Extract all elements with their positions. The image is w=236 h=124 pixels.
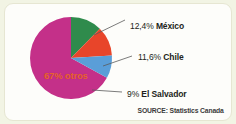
leader-line-el-salvador — [92, 90, 122, 92]
leader-line-mexico — [94, 20, 125, 35]
pie-label-mexico-value: 12,4% — [130, 21, 154, 31]
pie-chart-graphic — [5, 4, 232, 121]
pie-label-el-salvador-value: 9% — [127, 89, 139, 99]
pie-label-mexico: 12,4% México — [130, 22, 184, 31]
pie-label-chile-name: Chile — [163, 52, 183, 62]
chart-figure: 12,4% México 11,6% Chile 9% El Salvador … — [0, 0, 236, 124]
pie-label-otros: 67% otros — [44, 70, 88, 81]
pie-label-mexico-name: México — [156, 21, 184, 31]
pie-label-chile: 11,6% Chile — [138, 53, 184, 62]
pie-label-chile-value: 11,6% — [138, 52, 161, 62]
pie-label-el-salvador: 9% El Salvador — [127, 90, 187, 99]
pie-label-el-salvador-name: El Salvador — [141, 89, 186, 99]
chart-panel: 12,4% México 11,6% Chile 9% El Salvador … — [4, 3, 232, 121]
source-note: SOURCE: Statistics Canada — [138, 106, 224, 115]
